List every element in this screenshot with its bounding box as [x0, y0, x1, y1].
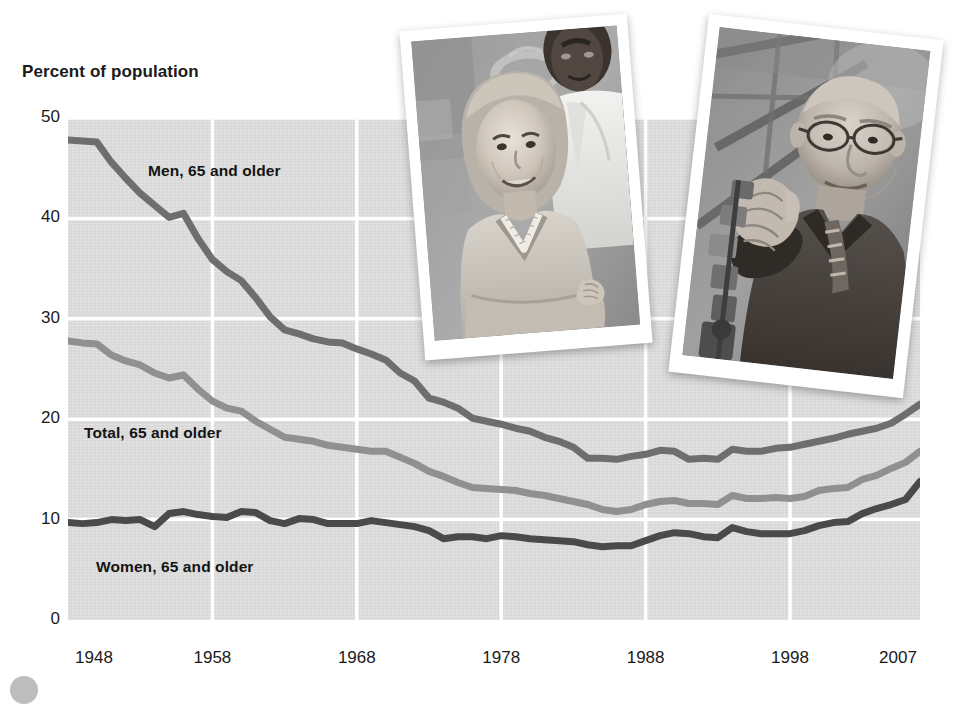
x-tick-1988: 1988 — [627, 648, 665, 668]
photo-woman-svg — [411, 25, 640, 340]
y-tick-50: 50 — [4, 107, 60, 127]
x-tick-1978: 1978 — [482, 648, 520, 668]
series-label-total: Total, 65 and older — [84, 424, 222, 442]
y-axis-tick-labels: 01020304050 — [0, 0, 60, 691]
x-tick-1998: 1998 — [771, 648, 809, 668]
photo-man-svg — [682, 27, 930, 379]
x-tick-2007: 2007 — [879, 648, 917, 668]
x-tick-1968: 1968 — [338, 648, 376, 668]
photo-woman-in-scrubs-image — [411, 25, 640, 340]
y-tick-20: 20 — [4, 408, 60, 428]
photo-woman-in-scrubs — [399, 14, 652, 361]
series-label-women: Women, 65 and older — [96, 558, 254, 576]
photo-older-man-image — [682, 27, 930, 379]
y-tick-0: 0 — [4, 609, 60, 629]
y-tick-30: 30 — [4, 308, 60, 328]
y-tick-10: 10 — [4, 509, 60, 529]
photo-older-man-with-tools — [668, 14, 943, 398]
x-tick-1958: 1958 — [193, 648, 231, 668]
y-tick-40: 40 — [4, 207, 60, 227]
series-label-men: Men, 65 and older — [148, 162, 281, 180]
x-tick-1948: 1948 — [75, 648, 113, 668]
corner-dot — [10, 676, 38, 704]
